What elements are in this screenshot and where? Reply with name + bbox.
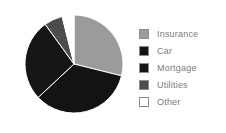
legend-label-car: Car <box>157 46 172 56</box>
pie-chart-figure: Insurance Car Mortgage Utilities Other <box>0 0 226 133</box>
legend-item-utilities[interactable]: Utilities <box>139 76 225 93</box>
legend-swatch-insurance <box>139 29 149 39</box>
legend-swatch-mortgage <box>139 63 149 73</box>
legend-item-other[interactable]: Other <box>139 93 225 110</box>
legend-swatch-other <box>139 97 149 107</box>
legend-swatch-car <box>139 46 149 56</box>
legend-label-other: Other <box>157 97 181 107</box>
legend-item-mortgage[interactable]: Mortgage <box>139 59 225 76</box>
pie-plot-area <box>14 4 134 128</box>
legend-label-insurance: Insurance <box>157 29 198 39</box>
legend-item-car[interactable]: Car <box>139 42 225 59</box>
chart-legend: Insurance Car Mortgage Utilities Other <box>139 25 225 110</box>
legend-label-utilities: Utilities <box>157 80 188 90</box>
pie-svg <box>14 4 134 128</box>
legend-item-insurance[interactable]: Insurance <box>139 25 225 42</box>
legend-swatch-utilities <box>139 80 149 90</box>
pie-slice-group <box>25 15 123 113</box>
legend-label-mortgage: Mortgage <box>157 63 197 73</box>
